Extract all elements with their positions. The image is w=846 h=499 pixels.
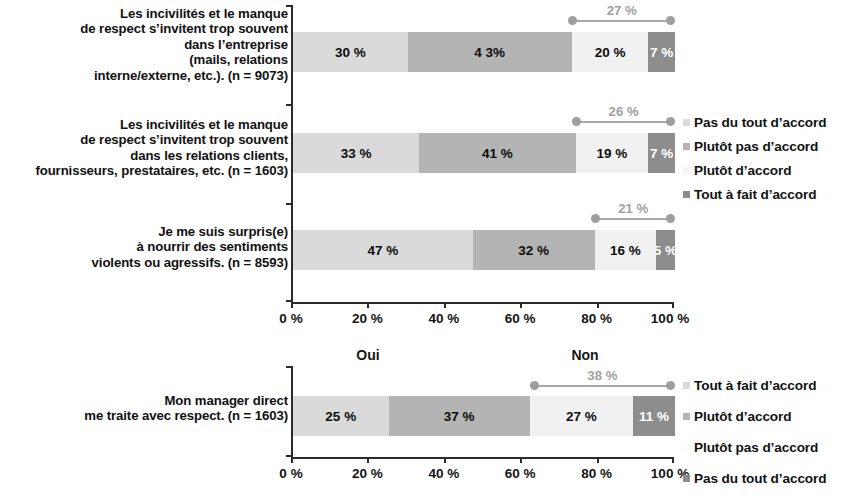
legend-item[interactable]: Pas du tout d’accord (683, 110, 826, 134)
bar-segment-label: 30 % (335, 45, 366, 60)
annotation-bracket-0: 27 % (568, 5, 675, 25)
bar-segment-label: 41 % (482, 146, 513, 161)
bar-segment: 27 % (530, 396, 633, 436)
bar-segment: 33 % (293, 133, 419, 173)
legend-swatch-icon (683, 191, 690, 198)
annotation-label: 27 % (607, 3, 637, 18)
legend-label: Plutôt d’accord (694, 163, 791, 178)
bar-segment-label: 27 % (566, 409, 597, 424)
legend-item[interactable]: Tout à fait d’accord (683, 182, 826, 206)
category-label-line: Mon manager direct (30, 393, 288, 408)
legend-item[interactable]: Plutôt d’accord (683, 158, 826, 182)
category-label-line: Les incivilités et le manque (0, 117, 288, 132)
plot-area: 38 % 25 % 37 % 27 % 11 % (291, 366, 675, 457)
bar-segment-label: 20 % (595, 45, 626, 60)
bar-segment: 47 % (293, 230, 473, 270)
x-axis-tick (444, 302, 446, 308)
bar-segment-label: 7 % (650, 45, 673, 60)
x-axis-tick (367, 302, 369, 308)
legend-swatch-icon (683, 143, 690, 150)
x-axis-line (291, 302, 673, 304)
bar-1: 33 % 41 % 19 % 7 % (293, 133, 675, 173)
legend-item[interactable]: Pas du tout d’accord (683, 463, 826, 494)
category-label-1: Les incivilités et le manque de respect … (0, 117, 288, 179)
x-axis-label: 40 % (428, 466, 459, 481)
mid-label-non: Non (571, 347, 598, 363)
legend-label: Pas du tout d’accord (694, 471, 826, 486)
top-chart: Les incivilités et le manque de respect … (0, 0, 846, 335)
category-label-line: Je me suis surpris(e) (40, 224, 288, 239)
bar-3: 25 % 37 % 27 % 11 % (293, 396, 675, 436)
category-label-line: dans l’entreprise (10, 37, 288, 52)
plot-area: 27 % 30 % 4 3% 20 % 7 % 26 % 33 % 41 % 1… (291, 5, 675, 302)
x-axis-label: 60 % (505, 311, 536, 326)
category-axis-tick (286, 366, 293, 368)
bar-segment-label: 11 % (639, 409, 669, 424)
annotation-dot-right (666, 16, 675, 25)
bar-segment-label: 32 % (518, 243, 549, 258)
legend-label: Plutôt pas d’accord (694, 440, 818, 455)
category-label-2: Je me suis surpris(e) à nourrir des sent… (40, 224, 288, 270)
category-label-line: fournisseurs, prestataires, etc. (n = 16… (0, 163, 288, 178)
bar-segment: 20 % (572, 32, 648, 72)
legend-item[interactable]: Tout à fait d’accord (683, 370, 826, 401)
annotation-bracket-3: 38 % (530, 370, 675, 390)
category-axis-tick (286, 5, 293, 7)
x-axis-label: 60 % (505, 466, 536, 481)
annotation-dot-right (666, 117, 675, 126)
category-label-line: dans les relations clients, (0, 148, 288, 163)
annotation-line (573, 20, 670, 22)
annotation-dot-left (572, 117, 581, 126)
category-label-line: (mails, relations (10, 52, 288, 67)
category-label-line: de respect s’invitent trop souvent (10, 21, 288, 36)
legend-swatch-icon (683, 444, 690, 451)
bar-segment: 7 % (648, 32, 675, 72)
category-label-line: violents ou agressifs. (n = 8593) (40, 255, 288, 270)
annotation-dot-right (666, 381, 675, 390)
legend-label: Plutôt d’accord (694, 409, 791, 424)
x-axis-label: 20 % (352, 311, 383, 326)
x-axis-label: 0 % (279, 466, 302, 481)
annotation-line (577, 121, 670, 123)
x-axis-tick (367, 457, 369, 463)
top-chart-legend: Pas du tout d’accord Plutôt pas d’accord… (683, 110, 826, 206)
bar-segment: 7 % (648, 133, 675, 173)
legend-swatch-icon (683, 119, 690, 126)
legend-swatch-icon (683, 167, 690, 174)
x-axis-label: 80 % (581, 466, 612, 481)
bar-segment: 5 % (656, 230, 675, 270)
x-axis-tick (672, 302, 674, 308)
legend-item[interactable]: Plutôt pas d’accord (683, 432, 826, 463)
annotation-dot-left (530, 381, 539, 390)
x-axis-label: 20 % (352, 466, 383, 481)
annotation-dot-left (591, 214, 600, 223)
bar-segment: 37 % (389, 396, 530, 436)
legend-item[interactable]: Plutôt pas d’accord (683, 134, 826, 158)
x-axis-tick (672, 457, 674, 463)
bar-2: 47 % 32 % 16 % 5 % (293, 230, 675, 270)
annotation-label: 26 % (609, 104, 639, 119)
bar-segment-label: 33 % (341, 146, 372, 161)
bar-segment: 32 % (473, 230, 595, 270)
x-axis-label: 100 % (651, 311, 689, 326)
bar-segment-label: 47 % (367, 243, 398, 258)
bar-segment-label: 4 3% (474, 45, 505, 60)
legend-item[interactable]: Plutôt d’accord (683, 401, 826, 432)
category-label-3: Mon manager direct me traite avec respec… (30, 393, 288, 424)
x-axis-tick (597, 457, 599, 463)
category-label-line: de respect s’invitent trop souvent (0, 132, 288, 147)
bar-segment-label: 19 % (597, 146, 628, 161)
bar-segment: 41 % (419, 133, 576, 173)
annotation-bracket-1: 26 % (572, 106, 675, 126)
bar-segment: 25 % (293, 396, 389, 436)
bar-segment-label: 7 % (650, 146, 673, 161)
annotation-label: 38 % (587, 368, 617, 383)
legend-swatch-icon (683, 475, 690, 482)
annotation-bracket-2: 21 % (591, 203, 675, 223)
x-axis-label: 0 % (279, 311, 302, 326)
bar-segment: 19 % (576, 133, 649, 173)
bar-segment: 16 % (595, 230, 656, 270)
x-axis-label: 40 % (428, 311, 459, 326)
x-axis-tick (291, 457, 293, 463)
annotation-dot-right (666, 214, 675, 223)
